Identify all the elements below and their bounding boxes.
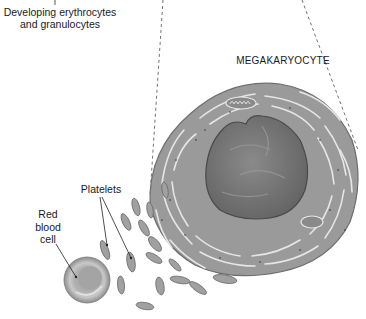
platelets-label: Platelets	[76, 183, 126, 195]
megakaryocyte-illustration	[0, 0, 366, 319]
developing-cells-label-line-2: and granulocytes	[2, 18, 118, 30]
red-blood-cell	[64, 257, 110, 303]
rbc-label-line-3: cell	[30, 233, 66, 246]
rbc-label-line-1: Red	[30, 208, 66, 221]
megakaryocyte-label: MEGAKARYOCYTE	[228, 55, 338, 67]
red-blood-cell-label: Red blood cell	[30, 208, 66, 246]
megakaryocyte	[150, 83, 358, 276]
diagram-canvas: Developing erythrocytes and granulocytes…	[0, 0, 366, 319]
mitochondrion-bottom	[301, 216, 323, 228]
developing-cells-label: Developing erythrocytes and granulocytes	[2, 6, 118, 30]
rbc-label-line-2: blood	[30, 221, 66, 234]
developing-cells-label-line-1: Developing erythrocytes	[2, 6, 118, 18]
nucleus	[206, 116, 308, 219]
